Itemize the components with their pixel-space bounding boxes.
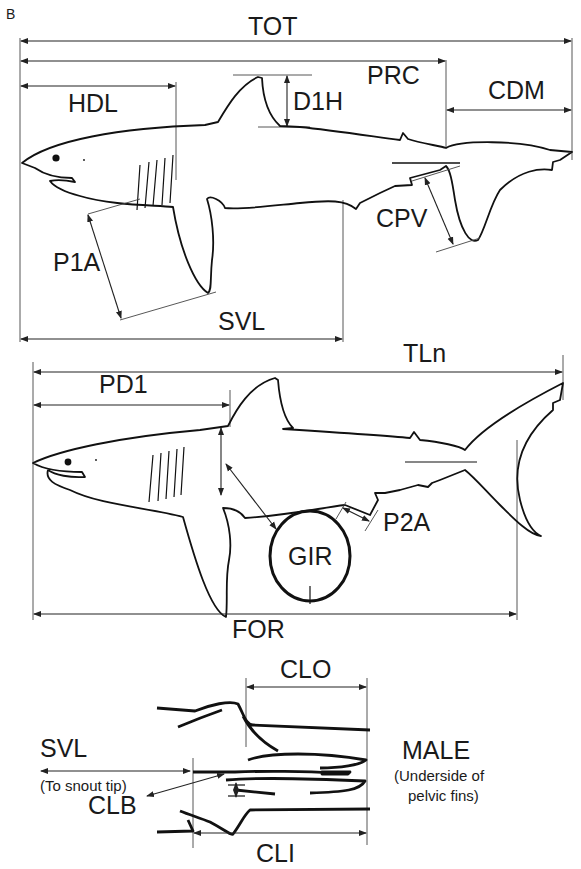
top-shark-eye	[52, 154, 59, 161]
clo-label: CLO	[280, 655, 331, 683]
middle-shark-gill-slits	[149, 447, 184, 502]
top-shark-gill-slits	[137, 155, 173, 210]
clb-pointer-line	[147, 774, 224, 796]
girth-pointer-line	[226, 464, 276, 529]
pd1-label: PD1	[99, 370, 148, 398]
cdm-label: CDM	[488, 76, 545, 104]
clasper-outline	[157, 703, 370, 835]
for-label: FOR	[232, 615, 285, 643]
clasper-svl-label: SVL	[40, 734, 87, 762]
clb-label: CLB	[88, 791, 137, 819]
middle-shark-eye	[65, 459, 72, 466]
male-label: MALE	[402, 736, 470, 764]
middle-shark-outline	[33, 378, 563, 617]
tln-label: TLn	[403, 339, 446, 367]
male-note-line2: pelvic fins)	[408, 787, 479, 804]
tot-label: TOT	[248, 12, 298, 40]
top-shark-panel: TOT PRC HDL D1H CDM CPV P1A	[20, 12, 572, 342]
hdl-label: HDL	[68, 89, 118, 117]
panel-label: B	[6, 6, 15, 22]
cpv-label: CPV	[376, 204, 428, 232]
cpv-dimension-line	[425, 178, 453, 244]
p2a-label: P2A	[383, 508, 431, 536]
shark-morphometrics-figure: B TOT PRC HDL D1H CDM	[0, 0, 581, 869]
middle-shark-panel: TLn PD1 GIR P2A FOR	[33, 339, 563, 643]
clasper-detail-panel: CLO SVL (To snout tip) CLB MALE (Undersi…	[40, 655, 485, 867]
male-note-line1: (Underside of	[394, 767, 485, 784]
cli-label: CLI	[256, 839, 295, 867]
gir-label: GIR	[288, 542, 332, 570]
d1h-label: D1H	[293, 87, 343, 115]
p1a-label: P1A	[53, 248, 101, 276]
prc-label: PRC	[367, 61, 420, 89]
svl-label: SVL	[218, 307, 265, 335]
